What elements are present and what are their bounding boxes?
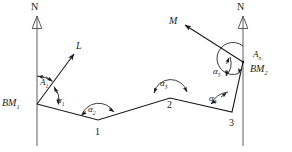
angle-arc-a2-ticks	[82, 109, 114, 116]
angle-label-a5: α5	[213, 67, 221, 78]
angle-arc-a3	[154, 80, 187, 93]
station-label-3: 3	[229, 118, 234, 128]
sight-line-to-M	[185, 25, 243, 62]
north-label-right: N	[237, 2, 244, 12]
angle-label-a1: α1	[57, 96, 65, 107]
target-label-M: M	[169, 16, 177, 26]
angle-label-An: An	[253, 50, 261, 61]
angle-label-a2: α2	[88, 105, 96, 116]
angle-label-a3: α3	[160, 79, 168, 90]
angle-label-a4: α4	[209, 94, 217, 105]
angle-arc-An-ticks	[239, 69, 240, 73]
traverse-diagram: N N BM1 1 2 3 BM2 L M A1 α1 α2 α3 α4 α5 …	[0, 0, 292, 152]
station-label-bm2: BM2	[250, 64, 268, 76]
station-markers	[242, 61, 245, 64]
target-label-L: L	[76, 41, 82, 51]
station-label-2: 2	[167, 100, 172, 110]
station-label-bm1: BM1	[2, 98, 20, 110]
meridian-line-right	[238, 16, 248, 146]
angle-label-A1: A1	[40, 78, 48, 89]
north-label-left: N	[31, 2, 38, 12]
diagram-canvas	[0, 0, 292, 152]
station-label-1: 1	[95, 127, 100, 137]
angle-arc-a2	[82, 103, 115, 115]
